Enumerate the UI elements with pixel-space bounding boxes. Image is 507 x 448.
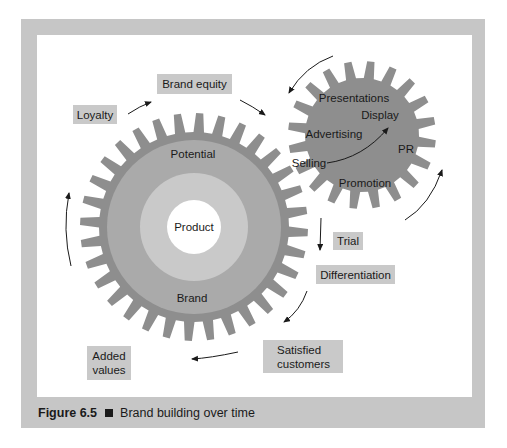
figure-number: Figure 6.5 (38, 406, 97, 420)
pr-label: PR (398, 143, 414, 155)
arrow-loyalty-to-brand-equity (128, 102, 151, 114)
selling-label: Selling (292, 157, 327, 169)
loyalty-box: Loyalty (73, 105, 117, 124)
advertising-label: Advertising (306, 128, 363, 140)
added-values-box: Added values (87, 346, 131, 380)
caption-square-icon (105, 409, 113, 417)
arrow-to-loyalty (66, 193, 71, 266)
presentations-label: Presentations (319, 92, 389, 104)
arrow-to-satisfied-customers (284, 291, 307, 322)
potential-label: Potential (171, 148, 216, 160)
trial-box: Trial (333, 232, 363, 250)
promotion-label: Promotion (339, 177, 391, 189)
gear-diagram (0, 0, 507, 448)
figure-caption: Figure 6.5Brand building over time (38, 406, 255, 420)
product-label: Product (174, 221, 214, 233)
arrow-to-trial (320, 218, 321, 250)
arrow-to-added-values (192, 352, 238, 359)
arrow-brand-equity-to-small-gear (240, 100, 265, 115)
display-label: Display (361, 109, 399, 121)
satisfied-customers-box: Satisfied customers (263, 340, 343, 373)
brand-label: Brand (177, 292, 208, 304)
differentiation-box: Differentiation (316, 265, 395, 284)
brand-equity-box: Brand equity (157, 74, 232, 94)
figure-title: Brand building over time (120, 406, 255, 420)
